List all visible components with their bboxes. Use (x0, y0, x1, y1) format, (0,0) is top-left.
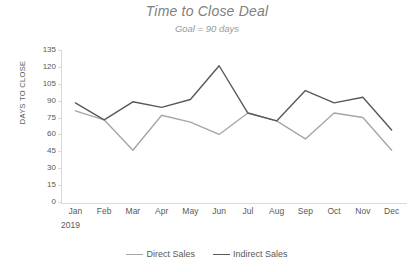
y-tick-label: 120 (30, 63, 56, 71)
legend-item-indirect-sales[interactable]: Indirect Sales (213, 249, 288, 259)
x-tick-label: Dec (384, 206, 399, 216)
y-tick-label: 105 (30, 80, 56, 88)
x-tick-label: Jan (69, 206, 83, 216)
legend-label: Indirect Sales (233, 249, 288, 259)
x-axis-group-label: 2019 (61, 220, 80, 230)
series-lines (61, 50, 406, 202)
legend-label: Direct Sales (146, 249, 195, 259)
y-tick-label: 45 (30, 147, 56, 155)
x-tick-label: May (182, 206, 198, 216)
y-tick-label: 30 (30, 164, 56, 172)
legend-swatch-icon (126, 254, 143, 255)
x-tick-label: Jul (242, 206, 253, 216)
y-tick-label: 15 (30, 181, 56, 189)
x-tick-label: Aug (269, 206, 284, 216)
legend-swatch-icon (213, 254, 230, 255)
y-tick-label: 75 (30, 114, 56, 122)
y-tick-label: 90 (30, 97, 56, 105)
y-axis-tick-labels: 1351201059075604530150 (28, 50, 56, 203)
chart-title: Time to Close Deal (0, 3, 414, 19)
x-tick-label: Apr (155, 206, 168, 216)
y-tick-label: 0 (30, 198, 56, 206)
x-axis-line (61, 203, 407, 204)
legend-item-direct-sales[interactable]: Direct Sales (126, 249, 195, 259)
chart-subtitle: Goal = 90 days (0, 23, 414, 34)
plot-area (61, 50, 406, 202)
chart-container: Time to Close Deal Goal = 90 days DAYS T… (0, 0, 414, 272)
x-tick-label: Sep (298, 206, 313, 216)
x-tick-label: Feb (97, 206, 112, 216)
x-tick-label: Nov (355, 206, 370, 216)
chart-legend: Direct SalesIndirect Sales (0, 249, 414, 259)
y-tick-label: 135 (30, 46, 56, 54)
x-axis-tick-labels: JanFebMarAprMayJunJulAugSepOctNovDec (61, 206, 406, 220)
series-line-direct-sales (75, 111, 391, 150)
x-tick-label: Mar (126, 206, 141, 216)
series-line-indirect-sales (75, 66, 391, 130)
y-axis-title: DAYS TO CLOSE (18, 53, 27, 133)
x-tick-label: Jun (212, 206, 226, 216)
y-tick-label: 60 (30, 130, 56, 138)
x-tick-label: Oct (328, 206, 341, 216)
